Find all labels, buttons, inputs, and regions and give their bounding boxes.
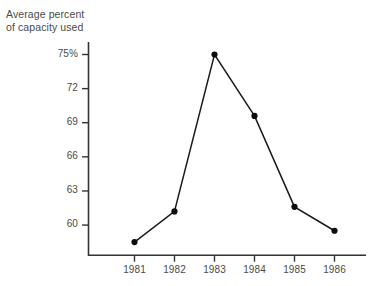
- y-axis-tick-label: 69: [20, 116, 78, 127]
- y-axis-tick-label: 63: [20, 184, 78, 195]
- x-axis-tick-label: 1986: [315, 264, 355, 275]
- x-axis-ticks: [135, 255, 335, 262]
- x-axis-tick-label: 1982: [155, 264, 195, 275]
- data-point: [131, 239, 137, 245]
- data-point: [251, 113, 257, 119]
- data-point: [291, 204, 297, 210]
- y-axis-tick-label: 75%: [20, 48, 78, 59]
- data-point: [211, 51, 217, 57]
- x-axis-tick-label: 1981: [115, 264, 155, 275]
- data-point: [171, 208, 177, 214]
- y-axis-ticks: [82, 55, 89, 226]
- line-chart-plot: [0, 0, 378, 286]
- x-axis-tick-label: 1985: [275, 264, 315, 275]
- y-axis-tick-label: 72: [20, 82, 78, 93]
- x-axis-tick-label: 1984: [235, 264, 275, 275]
- data-line: [135, 55, 335, 243]
- y-axis-tick-label: 60: [20, 218, 78, 229]
- x-axis-tick-label: 1983: [195, 264, 235, 275]
- y-axis-tick-label: 66: [20, 150, 78, 161]
- data-point-markers: [131, 51, 337, 245]
- data-point: [331, 228, 337, 234]
- chart-container: Average percent of capacity used 75%7269…: [0, 0, 378, 286]
